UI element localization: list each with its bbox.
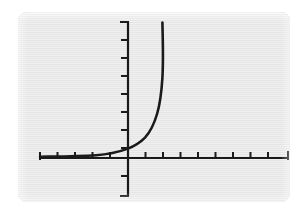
graph-panel: [18, 12, 290, 202]
plot-area: [18, 12, 290, 202]
figure-root: [0, 0, 308, 216]
exponential-curve: [40, 23, 163, 157]
